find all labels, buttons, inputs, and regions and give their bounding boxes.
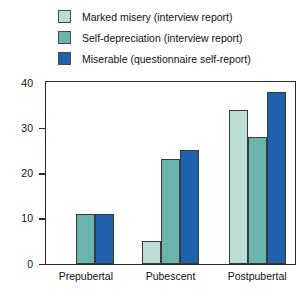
bar xyxy=(229,110,248,264)
legend-item-miserable: Miserable (questionnaire self-report) xyxy=(58,48,298,69)
bar xyxy=(248,137,267,264)
y-axis-tick-label: 30 xyxy=(21,123,33,133)
bar xyxy=(142,241,161,264)
y-axis-tick-label: 40 xyxy=(21,78,33,88)
y-axis-tick-labels: 010203040 xyxy=(0,72,40,268)
bar-group xyxy=(229,83,286,264)
bar xyxy=(180,150,199,263)
bar-group xyxy=(142,83,199,264)
bar-group xyxy=(57,83,114,264)
y-axis-tick-label: 10 xyxy=(21,213,33,223)
chart-plot-area: 010203040 PrepubertalPubescentPostpubert… xyxy=(0,72,303,308)
legend-label-miserable: Miserable (questionnaire self-report) xyxy=(82,53,251,65)
x-axis-tick-label: Pubescent xyxy=(146,270,196,282)
bar xyxy=(161,159,180,263)
bars-layer xyxy=(47,83,295,264)
legend-swatch-miserable xyxy=(58,52,71,65)
bar xyxy=(76,214,95,264)
legend-item-marked-misery: Marked misery (interview report) xyxy=(58,6,298,27)
legend-label-marked-misery: Marked misery (interview report) xyxy=(82,11,233,23)
legend-swatch-self-depreciation xyxy=(58,31,71,44)
x-axis-tick-labels: PrepubertalPubescentPostpubertal xyxy=(45,270,296,290)
chart-legend: Marked misery (interview report) Self-de… xyxy=(58,6,298,69)
legend-label-self-depreciation: Self-depreciation (interview report) xyxy=(82,32,242,44)
x-axis-tick-label: Postpubertal xyxy=(228,270,287,282)
x-axis-tick-label: Prepubertal xyxy=(59,270,113,282)
bar xyxy=(267,92,286,264)
y-axis-tick-label: 0 xyxy=(27,259,33,269)
legend-swatch-marked-misery xyxy=(58,10,71,23)
bar xyxy=(95,214,114,264)
legend-item-self-depreciation: Self-depreciation (interview report) xyxy=(58,27,298,48)
y-axis-tick-label: 20 xyxy=(21,168,33,178)
